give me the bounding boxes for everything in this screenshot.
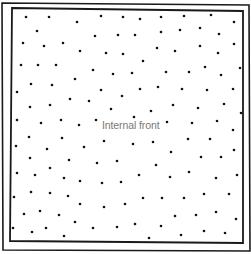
dot bbox=[22, 42, 25, 45]
dot bbox=[150, 110, 153, 113]
dot bbox=[51, 84, 54, 87]
dot bbox=[15, 145, 18, 148]
dot bbox=[138, 174, 141, 177]
dot bbox=[124, 203, 127, 206]
dot bbox=[203, 193, 206, 196]
dot bbox=[68, 159, 71, 162]
dot bbox=[62, 42, 65, 45]
dot bbox=[83, 146, 86, 149]
dot bbox=[235, 218, 238, 221]
dot bbox=[121, 95, 124, 98]
dot bbox=[132, 143, 135, 146]
dot bbox=[236, 174, 239, 177]
dot bbox=[217, 52, 220, 55]
dot bbox=[199, 27, 202, 30]
dot bbox=[13, 196, 16, 199]
dot bbox=[29, 157, 32, 160]
dot bbox=[215, 211, 218, 214]
dot bbox=[170, 151, 173, 154]
diagram-canvas: Internal front bbox=[0, 0, 251, 254]
dot bbox=[139, 88, 142, 91]
dot bbox=[110, 108, 113, 111]
dot bbox=[228, 193, 231, 196]
dot bbox=[100, 89, 103, 92]
dot bbox=[174, 50, 177, 53]
dot bbox=[203, 230, 206, 233]
dot bbox=[209, 138, 212, 141]
dot bbox=[134, 223, 137, 226]
dot bbox=[95, 119, 98, 122]
dot bbox=[165, 71, 168, 74]
dot bbox=[206, 89, 209, 92]
dot bbox=[166, 121, 169, 124]
dot bbox=[188, 171, 191, 174]
internal-front-label: Internal front bbox=[102, 119, 160, 131]
dot bbox=[58, 214, 61, 217]
dot bbox=[96, 162, 99, 165]
dot bbox=[148, 237, 151, 240]
dot bbox=[16, 172, 19, 175]
dot bbox=[116, 226, 119, 229]
dot bbox=[199, 45, 202, 48]
dot bbox=[49, 167, 52, 170]
dot bbox=[103, 206, 106, 209]
dot bbox=[220, 74, 223, 77]
dot bbox=[79, 203, 82, 206]
dot bbox=[157, 86, 160, 89]
dot bbox=[16, 91, 19, 94]
dot bbox=[239, 67, 242, 70]
dot bbox=[122, 53, 125, 56]
dot bbox=[169, 176, 172, 179]
dot bbox=[105, 52, 108, 55]
dot bbox=[155, 164, 158, 167]
dot bbox=[100, 15, 103, 18]
dot bbox=[20, 64, 23, 67]
dot bbox=[195, 214, 198, 217]
dot bbox=[223, 103, 226, 106]
dot bbox=[120, 181, 123, 184]
dot bbox=[74, 78, 77, 81]
dot bbox=[74, 221, 77, 224]
dot bbox=[188, 71, 191, 74]
dot bbox=[63, 235, 66, 238]
dot bbox=[183, 15, 186, 18]
dot bbox=[60, 119, 63, 122]
dot bbox=[49, 192, 52, 195]
dot bbox=[183, 197, 186, 200]
dot bbox=[39, 210, 42, 213]
dot bbox=[218, 33, 221, 36]
dot bbox=[92, 69, 95, 72]
dot bbox=[180, 234, 183, 237]
dot bbox=[79, 50, 82, 53]
dot bbox=[55, 64, 58, 67]
dot bbox=[232, 88, 235, 91]
dot bbox=[240, 112, 243, 115]
dot bbox=[156, 47, 159, 50]
dot bbox=[134, 34, 137, 37]
dot bbox=[30, 191, 33, 194]
dot bbox=[46, 148, 49, 151]
dot bbox=[16, 119, 19, 122]
dot bbox=[187, 138, 190, 141]
dot bbox=[67, 195, 70, 198]
dot bbox=[31, 231, 34, 234]
dot bbox=[43, 45, 46, 48]
dot bbox=[224, 232, 227, 235]
dot bbox=[122, 16, 125, 19]
dot bbox=[61, 137, 64, 140]
dot bbox=[116, 160, 119, 163]
dot bbox=[174, 215, 177, 218]
dot bbox=[160, 16, 163, 19]
dot bbox=[23, 213, 26, 216]
dot bbox=[88, 100, 91, 103]
dot bbox=[133, 116, 136, 119]
dot bbox=[179, 29, 182, 32]
dot bbox=[30, 83, 33, 86]
dot bbox=[142, 60, 145, 63]
dot bbox=[139, 18, 142, 21]
dot bbox=[181, 88, 184, 91]
dot bbox=[172, 104, 175, 107]
dot bbox=[232, 129, 235, 132]
dot bbox=[103, 140, 106, 143]
dot bbox=[94, 35, 97, 38]
